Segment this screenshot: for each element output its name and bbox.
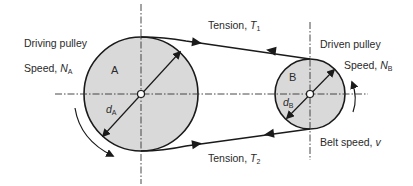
- driving-pulley-title: Driving pulley: [24, 37, 87, 49]
- speed-b-subscript: B: [388, 65, 393, 72]
- tension-top-label: Tension, T1: [208, 20, 260, 32]
- hub-a: [138, 91, 145, 98]
- diameter-a-label: dA: [106, 104, 117, 116]
- rotation-arrow-b-icon: [352, 82, 355, 112]
- diagram-graphics: [0, 0, 413, 186]
- arrow-left-icon: [265, 45, 276, 55]
- diameter-b-label: dB: [283, 97, 294, 109]
- tension-top-subscript: 1: [256, 25, 260, 32]
- speed-a-label: Speed, NA: [24, 63, 72, 75]
- diameter-a-subscript: A: [112, 109, 117, 116]
- belt-speed-symbol: v: [375, 136, 380, 148]
- tension-top-prefix: Tension,: [208, 19, 250, 31]
- driven-pulley-label: Driven pulley: [320, 39, 381, 50]
- hub-b: [307, 91, 314, 98]
- belt-drive-diagram: Driving pulley Speed, NA A dA Tension, T…: [0, 0, 413, 186]
- speed-a-symbol: N: [60, 62, 68, 74]
- belt-speed-prefix: Belt speed,: [320, 136, 375, 148]
- driving-pulley-label: Driving pulley: [24, 38, 87, 49]
- speed-a-subscript: A: [68, 68, 73, 75]
- arrow-left-icon: [263, 129, 274, 139]
- tension-bottom-subscript: 2: [256, 158, 260, 165]
- driven-pulley-title: Driven pulley: [320, 38, 381, 50]
- speed-b-symbol: N: [380, 59, 388, 71]
- speed-b-prefix: Speed,: [344, 59, 380, 71]
- pulley-b-letter: B: [289, 72, 296, 83]
- speed-a-prefix: Speed,: [24, 62, 60, 74]
- speed-b-label: Speed, NB: [344, 60, 392, 72]
- belt-speed-label: Belt speed, v: [320, 137, 381, 148]
- diameter-b-subscript: B: [289, 102, 294, 109]
- tension-bottom-prefix: Tension,: [208, 152, 250, 164]
- tension-bottom-label: Tension, T2: [208, 153, 260, 165]
- pulley-a-letter: A: [111, 65, 118, 76]
